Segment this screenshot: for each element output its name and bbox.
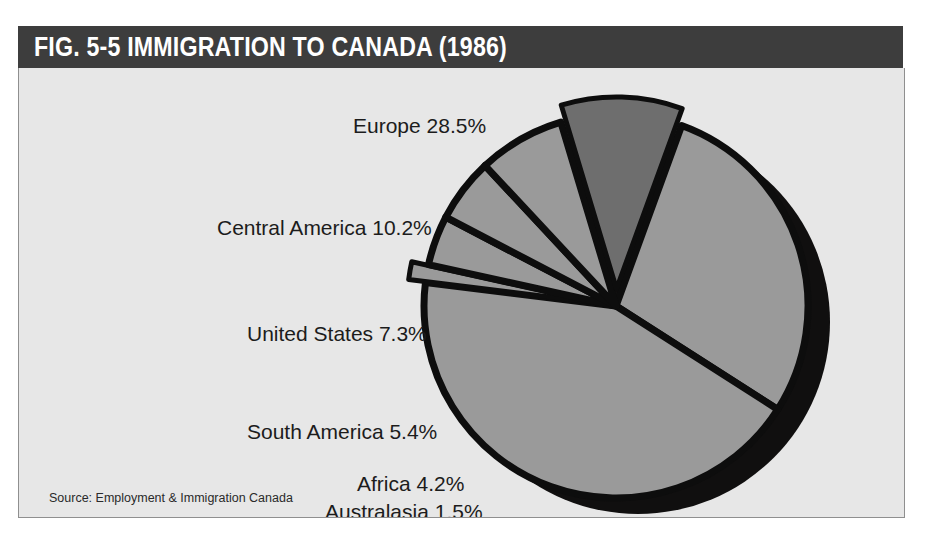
figure-header-bar: FIG. 5-5 IMMIGRATION TO CANADA (1986) bbox=[18, 26, 903, 68]
pie-slices bbox=[409, 97, 808, 498]
pie-label-central-america: Central America 10.2% bbox=[217, 216, 432, 240]
pie-label-united-states: United States 7.3% bbox=[247, 322, 427, 346]
source-note: Source: Employment & Immigration Canada bbox=[49, 491, 293, 505]
figure-title: FIG. 5-5 IMMIGRATION TO CANADA (1986) bbox=[34, 31, 507, 63]
pie-label-australasia: Australasia 1.5% bbox=[325, 500, 483, 518]
pie-label-south-america: South America 5.4% bbox=[247, 420, 437, 444]
figure-container: FIG. 5-5 IMMIGRATION TO CANADA (1986) Eu… bbox=[18, 26, 905, 518]
pie-chart-plot-area: Europe 28.5% Central America 10.2% Unite… bbox=[18, 68, 905, 518]
pie-label-africa: Africa 4.2% bbox=[357, 472, 464, 496]
pie-label-europe: Europe 28.5% bbox=[353, 114, 486, 138]
